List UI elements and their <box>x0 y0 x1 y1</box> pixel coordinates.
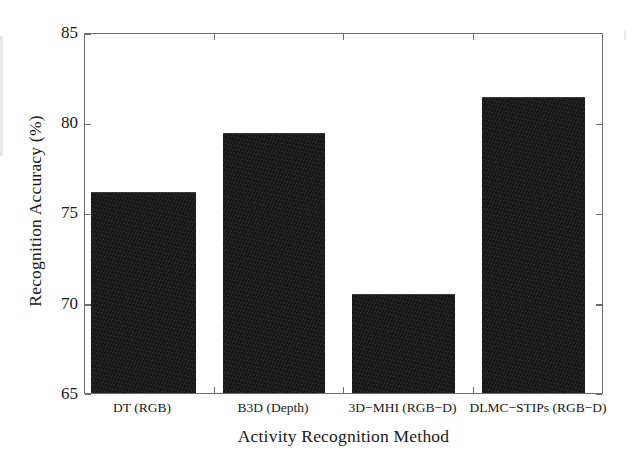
bar <box>91 192 196 393</box>
y-tick-mark-right <box>596 394 602 395</box>
y-tick-mark-right <box>596 304 602 305</box>
x-tick-label: DLMC−STIPs (RGB−D) <box>462 398 614 418</box>
bar-chart-figure: Recognition Accuracy (%) 65 70 75 80 85 <box>0 0 638 461</box>
y-tick-mark <box>85 124 91 125</box>
x-axis-tick-labels: DT (RGB) B3D (Depth) 3D−MHI (RGB−D) DLMC… <box>84 398 603 422</box>
scan-artifact <box>0 36 3 156</box>
x-tick-mark-top <box>473 34 474 40</box>
y-tick-label: 70 <box>38 295 78 313</box>
bar <box>352 294 455 393</box>
plot-area <box>84 33 603 394</box>
x-tick-label: DT (RGB) <box>77 398 207 418</box>
x-tick-label: 3D−MHI (RGB−D) <box>334 398 471 418</box>
x-tick-mark-bottom <box>473 387 474 393</box>
x-tick-mark-top <box>214 34 215 40</box>
bar <box>223 133 325 393</box>
y-tick-label: 65 <box>38 385 78 403</box>
y-axis-tick-labels: 65 70 75 80 85 <box>36 0 78 461</box>
x-tick-mark-bottom <box>214 387 215 393</box>
bar <box>482 97 585 393</box>
x-tick-label: B3D (Depth) <box>208 398 338 418</box>
x-axis-title: Activity Recognition Method <box>84 424 603 448</box>
x-tick-mark-bottom <box>343 387 344 393</box>
y-tick-mark-right <box>596 124 602 125</box>
x-tick-mark-top <box>343 34 344 40</box>
y-tick-mark <box>85 394 91 395</box>
y-tick-mark <box>85 34 91 35</box>
y-tick-label: 85 <box>38 24 78 42</box>
y-tick-label: 75 <box>38 204 78 222</box>
scan-artifact <box>624 30 626 40</box>
y-tick-mark-right <box>596 214 602 215</box>
y-tick-label: 80 <box>38 114 78 132</box>
